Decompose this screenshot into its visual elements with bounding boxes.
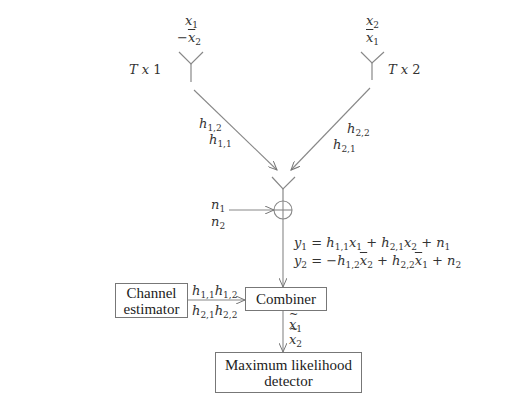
tx2-symbol-2: x1 bbox=[366, 31, 379, 47]
channel-estimator-line2: estimator bbox=[124, 301, 180, 317]
tx1-label: T x 1 bbox=[129, 63, 162, 76]
ml-detector-block: Maximum likelihood detector bbox=[215, 352, 362, 393]
channel-h21: h2,1 bbox=[333, 138, 356, 154]
channel-h11: h1,1 bbox=[209, 133, 232, 149]
tx2-label: T x 2 bbox=[388, 63, 421, 76]
rx-antenna-icon bbox=[272, 177, 295, 201]
noise-n2: n2 bbox=[211, 215, 225, 231]
ml-detector-line2: detector bbox=[264, 373, 312, 389]
channel-h22: h2,2 bbox=[347, 122, 370, 138]
channel-estimator-line1: Channel bbox=[127, 285, 177, 301]
tx1-symbol-2: −x2 bbox=[177, 31, 201, 47]
tx2-symbol-1: x2 bbox=[366, 14, 379, 30]
equation-y1: y1 = h1,1x1 + h2,1x2 + n1 bbox=[294, 236, 450, 252]
combiner-output-2: x2 bbox=[289, 333, 302, 349]
tx2-antenna-icon bbox=[361, 52, 384, 80]
adder-icon bbox=[274, 201, 292, 219]
channel-h12: h1,2 bbox=[199, 117, 222, 133]
diagram-lines bbox=[0, 0, 524, 410]
tx1-antenna-icon bbox=[179, 52, 203, 82]
ml-detector-line1: Maximum likelihood bbox=[225, 357, 352, 373]
alamouti-diagram: x1 −x2 T x 1 x2 x1 T x 2 h1,2 h1,1 h2,2 … bbox=[0, 0, 524, 410]
equation-y2: y2 = −h1,2x2 + h2,2x1 + n2 bbox=[294, 254, 461, 270]
estimate-bottom: h2,1h2,2 bbox=[192, 304, 237, 320]
tx1-symbol-1: x1 bbox=[185, 14, 198, 30]
channel-estimator-block: Channel estimator bbox=[115, 283, 188, 318]
estimate-top: h1,1h1,2 bbox=[192, 284, 237, 300]
combiner-label: Combiner bbox=[256, 291, 316, 307]
combiner-block: Combiner bbox=[245, 287, 327, 311]
noise-n1: n1 bbox=[211, 198, 225, 214]
